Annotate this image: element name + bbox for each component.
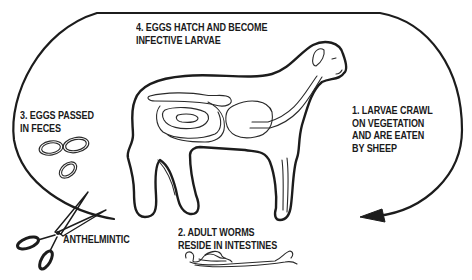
- scissors-icon: [16, 192, 106, 271]
- arrowhead-icon: [360, 209, 385, 222]
- stage-3-label: 3. EGGS PASSED IN FECES: [20, 109, 94, 134]
- sheep-illustration: [128, 42, 347, 220]
- stage-1-line-2: ON VEGETATION: [352, 117, 433, 130]
- stage-4-line-1: 4. EGGS HATCH AND BECOME: [136, 21, 267, 34]
- worms-icon: [186, 251, 297, 267]
- stage-1-line-1: 1. LARVAE CRAWL: [352, 104, 433, 117]
- stage-2-line-2: RESIDE IN INTESTINES: [178, 239, 277, 252]
- stage-3-line-1: 3. EGGS PASSED: [20, 109, 94, 122]
- anthelmintic-label: ANTHELMINTIC: [63, 233, 130, 246]
- eggs-icon: [38, 135, 90, 181]
- stage-1-label: 1. LARVAE CRAWL ON VEGETATION AND ARE EA…: [352, 104, 433, 154]
- stage-2-line-1: 2. ADULT WORMS: [178, 226, 277, 239]
- stage-4-label: 4. EGGS HATCH AND BECOME INFECTIVE LARVA…: [136, 21, 267, 46]
- stage-2-label: 2. ADULT WORMS RESIDE IN INTESTINES: [178, 226, 277, 251]
- stage-4-line-2: INFECTIVE LARVAE: [136, 34, 267, 47]
- stage-1-line-3: AND ARE EATEN: [352, 129, 433, 142]
- anthelmintic-text: ANTHELMINTIC: [63, 233, 130, 246]
- stage-3-line-2: IN FECES: [20, 122, 94, 135]
- stage-1-line-4: BY SHEEP: [352, 142, 433, 155]
